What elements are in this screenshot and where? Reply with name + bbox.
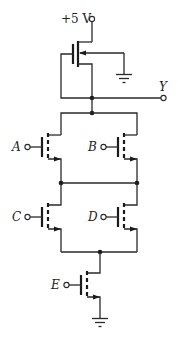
transistor-b: B [87, 133, 137, 183]
supply-label: +5 V [61, 12, 92, 26]
output-label: Y [159, 80, 168, 94]
arrow-b-icon [130, 157, 137, 162]
circuit-schematic: +5 V Y A [0, 0, 180, 346]
input-e-terminal [64, 282, 69, 287]
supply-terminal [89, 16, 94, 21]
input-a-terminal [25, 144, 30, 149]
input-b-label: B [87, 140, 97, 154]
input-c-label: C [12, 210, 21, 224]
arrow-d-icon [130, 227, 137, 232]
transistor-a: A [11, 133, 61, 183]
input-b-terminal [101, 144, 106, 149]
load-gate-wire [61, 54, 92, 98]
arrow-a-icon [54, 157, 61, 162]
transistor-d: D [87, 183, 137, 252]
input-e-label: E [50, 278, 60, 292]
top-bus [61, 113, 137, 135]
arrow-c-icon [54, 227, 61, 232]
transistor-c: C [12, 183, 61, 252]
ground-icon [116, 75, 132, 83]
body-arrow-icon [79, 51, 86, 56]
load-source [78, 64, 92, 98]
input-d-terminal [101, 214, 106, 219]
transistor-e: E [50, 252, 100, 318]
output-terminal [161, 95, 166, 100]
ground-bottom-icon [92, 319, 108, 327]
load-transistor [61, 41, 124, 98]
input-d-label: D [87, 210, 98, 224]
input-a-label: A [11, 140, 21, 154]
arrow-e-icon [93, 295, 100, 300]
input-c-terminal [25, 214, 30, 219]
